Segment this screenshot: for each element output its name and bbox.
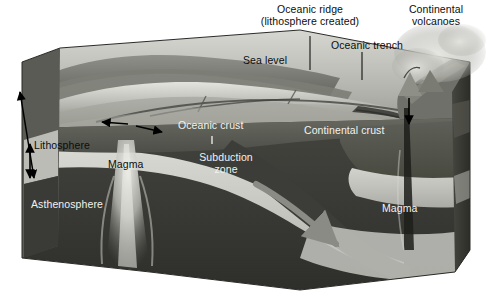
label-continental-crust: Continental crust [304, 125, 385, 137]
label-lithosphere: Lithosphere [34, 140, 90, 152]
left-side-face [22, 48, 60, 258]
label-oceanic-ridge-line2: (lithosphere created) [254, 16, 366, 28]
plate-tectonics-diagram: Oceanic ridge (lithosphere created) Cont… [0, 0, 487, 303]
eruption-smoke-inner [392, 48, 444, 84]
label-continental-volcanoes-line1: Continental [394, 4, 478, 16]
label-magma-left: Magma [108, 159, 144, 171]
label-oceanic-ridge-line1: Oceanic ridge [254, 4, 366, 16]
label-subduction-zone-line2: zone [190, 164, 262, 176]
label-subduction-zone: Subduction zone [190, 152, 262, 175]
label-magma-right: Magma [382, 203, 418, 215]
right-face-band-1 [452, 100, 470, 138]
eruption-smoke-upper [438, 24, 486, 56]
label-subduction-zone-line1: Subduction [190, 152, 262, 164]
right-face-band-2 [454, 170, 470, 204]
left-face-asthenosphere [24, 176, 58, 258]
label-continental-volcanoes-line2: volcanoes [394, 16, 478, 28]
label-oceanic-ridge: Oceanic ridge (lithosphere created) [254, 4, 366, 27]
right-face-panel [452, 62, 470, 272]
label-sea-level: Sea level [243, 55, 287, 67]
label-oceanic-trench: Oceanic trench [331, 40, 403, 52]
label-asthenosphere: Asthenosphere [31, 199, 103, 211]
label-oceanic-crust: Oceanic crust [178, 120, 244, 132]
label-continental-volcanoes: Continental volcanoes [394, 4, 478, 27]
right-side-face [452, 62, 470, 272]
